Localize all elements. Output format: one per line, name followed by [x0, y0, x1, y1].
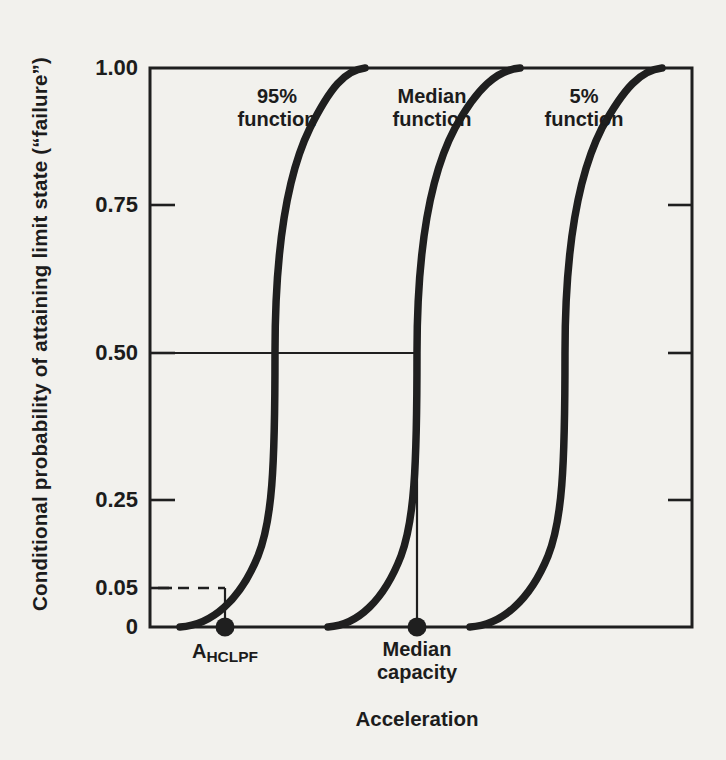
curve-5-percent — [470, 68, 662, 627]
axis-frame — [150, 68, 692, 627]
annotation-point-median-capacity-line2: capacity — [357, 661, 477, 684]
annotation-point-hclpf: AHCLPF — [165, 640, 285, 663]
curve-95-percent — [180, 68, 365, 627]
annotation-curve-median: Median function — [372, 85, 492, 131]
y-axis-ticks-right — [668, 205, 692, 500]
annotation-curve-median-line1: Median — [372, 85, 492, 108]
annotation-point-median-capacity: Median capacity — [357, 638, 477, 684]
annotation-curve-5-line1: 5% — [524, 85, 644, 108]
marker-dot-median-capacity — [408, 618, 427, 637]
annotation-curve-5: 5% function — [524, 85, 644, 131]
x-axis-label: Acceleration — [337, 707, 497, 731]
curve-median — [328, 68, 520, 627]
chart-figure: Conditional probability of attaining lim… — [0, 0, 726, 760]
annotation-point-hclpf-sub: HCLPF — [206, 648, 258, 665]
annotation-point-hclpf-main: A — [192, 640, 206, 662]
annotation-curve-95-line1: 95% — [222, 85, 332, 108]
annotation-curve-median-line2: function — [372, 108, 492, 131]
y-axis-ticks-left — [150, 205, 175, 588]
annotation-curve-95: 95% function — [222, 85, 332, 131]
annotation-curve-5-line2: function — [524, 108, 644, 131]
annotation-curve-95-line2: function — [222, 108, 332, 131]
marker-dot-hclpf — [216, 618, 235, 637]
annotation-point-median-capacity-line1: Median — [357, 638, 477, 661]
plot-frame-rect — [150, 68, 692, 627]
